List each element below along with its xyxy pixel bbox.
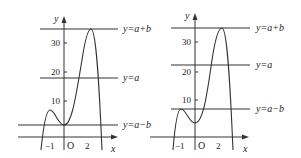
right-origin-label: O bbox=[198, 140, 205, 151]
right-x-label: x bbox=[242, 143, 248, 154]
left-label-a-minus-b: y=a−b bbox=[122, 119, 151, 130]
left-y-tick-30: 30 bbox=[51, 38, 61, 48]
left-x-axis-arrow-icon bbox=[111, 135, 118, 140]
right-y-tick-20: 20 bbox=[182, 67, 192, 77]
left-y-label: y bbox=[53, 13, 59, 24]
left-x-tick-neg1: −1 bbox=[45, 141, 55, 151]
left-x-tick-2: 2 bbox=[85, 141, 90, 151]
left-y-tick-20: 20 bbox=[51, 67, 61, 77]
right-label-a-plus-b: y=a+b bbox=[255, 22, 284, 33]
right-y-axis-arrow-icon bbox=[193, 13, 198, 20]
right-figure: 30 20 10 y x O −1 2 y=a+b y=a y=a−b bbox=[150, 10, 284, 154]
left-y-axis-arrow-icon bbox=[62, 16, 67, 23]
right-x-tick-2: 2 bbox=[216, 141, 221, 151]
left-figure: 30 20 10 y x O −1 2 y=a+b y=a y=a−b bbox=[18, 13, 151, 154]
right-y-tick-30: 30 bbox=[182, 37, 192, 47]
left-label-a: y=a bbox=[122, 72, 139, 83]
left-origin-label: O bbox=[67, 140, 74, 151]
right-label-a-minus-b: y=a−b bbox=[255, 103, 284, 114]
right-x-axis-arrow-icon bbox=[242, 135, 249, 140]
diagram-canvas: 30 20 10 y x O −1 2 y=a+b y=a y=a−b 30 2… bbox=[0, 0, 301, 158]
left-label-a-plus-b: y=a+b bbox=[122, 23, 151, 34]
left-y-tick-10: 10 bbox=[51, 96, 61, 106]
right-y-tick-10: 10 bbox=[182, 95, 192, 105]
right-x-tick-neg1: −1 bbox=[175, 141, 185, 151]
right-label-a: y=a bbox=[255, 59, 272, 70]
right-y-label: y bbox=[184, 10, 190, 21]
left-x-label: x bbox=[110, 143, 116, 154]
